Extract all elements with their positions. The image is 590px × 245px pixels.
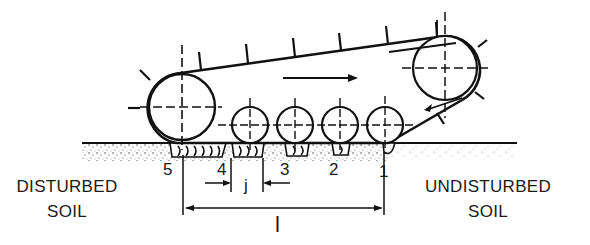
length-l-label: l [275, 214, 280, 236]
disturbed-soil-label-line2: SOIL [8, 203, 126, 220]
impression-label-5: 5 [163, 161, 172, 178]
undisturbed-soil-label-line2: SOIL [418, 203, 558, 220]
impression-label-4: 4 [217, 161, 226, 178]
rear-sprocket [140, 45, 222, 150]
undisturbed-soil-label: UNDISTURBED SOIL [418, 178, 558, 220]
direction-arrow [283, 74, 358, 82]
disturbed-soil-label: DISTURBED SOIL [8, 178, 126, 220]
impression-label-2: 2 [329, 161, 338, 178]
impression-3 [285, 143, 309, 156]
gap-j-label: j [244, 177, 248, 194]
front-idler [389, 12, 488, 118]
impression-label-1: 1 [379, 163, 388, 180]
impression-label-3: 3 [280, 161, 289, 178]
undisturbed-soil-label-line1: UNDISTURBED [418, 178, 558, 195]
impression-5 [170, 143, 226, 157]
disturbed-soil-label-line1: DISTURBED [8, 178, 126, 195]
undisturbed-soil-area [387, 143, 517, 159]
impression-4 [232, 143, 264, 157]
dimension-arrowheads [185, 180, 383, 211]
impression-2 [332, 143, 350, 155]
